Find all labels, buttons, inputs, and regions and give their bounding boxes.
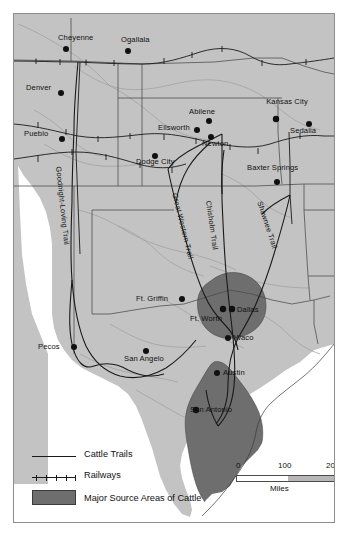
- city-label-newton: Newton: [202, 140, 228, 149]
- legend-item-cattle-trails: Cattle Trails: [22, 446, 202, 467]
- area-swatch-icon: [32, 490, 76, 505]
- city-label-ogallala: Ogallala: [121, 36, 150, 45]
- map-legend: Cattle Trails Railways Major Source Area…: [22, 446, 202, 512]
- legend-item-source-areas: Major Source Areas of Cattle: [22, 488, 202, 512]
- scale-tick-0: 0: [236, 461, 240, 470]
- city-label-cheyenne: Cheyenne: [58, 34, 93, 43]
- city-label-abilene: Abilene: [189, 108, 215, 117]
- railway-symbol-icon: [32, 477, 76, 478]
- city-label-ellsworth: Ellsworth: [158, 124, 190, 133]
- city-label-austin: Austin: [223, 369, 245, 378]
- map-figure: Cheyenne Ogallala Denver Abilene Kansas …: [0, 0, 352, 545]
- legend-label-railways: Railways: [84, 470, 121, 480]
- city-dot-ellsworth: [194, 127, 200, 133]
- city-dot-ft-worth: [220, 306, 226, 312]
- city-label-sedalia: Sedalia: [290, 127, 316, 136]
- city-label-ft-worth: Ft. Worth: [190, 315, 222, 324]
- city-label-dallas: Dallas: [237, 306, 259, 315]
- legend-label-cattle-trails: Cattle Trails: [84, 449, 133, 459]
- scale-tick-100: 100: [278, 461, 291, 470]
- city-label-san-angelo: San Angelo: [124, 355, 164, 364]
- city-label-ft-griffin: Ft. Griffin: [136, 295, 168, 304]
- city-dot-waco: [225, 335, 231, 341]
- city-dot-ft-griffin: [179, 296, 185, 302]
- city-label-dodge-city: Dodge City: [136, 158, 174, 166]
- city-label-pueblo: Pueblo: [24, 130, 48, 139]
- legend-item-railways: Railways: [22, 467, 202, 488]
- city-dot-austin: [214, 370, 220, 376]
- city-dot-pecos: [71, 344, 77, 350]
- scale-bar-graphic: [236, 475, 335, 482]
- city-label-pecos: Pecos: [38, 343, 60, 352]
- city-label-waco: Waco: [234, 334, 254, 343]
- scale-tick-200: 200: [326, 461, 335, 470]
- city-dot-abilene: [206, 118, 212, 124]
- line-symbol-icon: [32, 456, 76, 457]
- city-dot-denver: [58, 90, 64, 96]
- legend-label-source-areas: Major Source Areas of Cattle: [84, 493, 201, 503]
- city-dot-cheyenne: [63, 46, 69, 52]
- city-dot-pueblo: [59, 136, 65, 142]
- city-label-baxter-springs: Baxter Springs: [247, 164, 293, 172]
- map-plate: Cheyenne Ogallala Denver Abilene Kansas …: [13, 13, 335, 523]
- city-dot-baxter-springs: [274, 179, 280, 185]
- city-dot-kansas-city: [273, 116, 279, 122]
- city-label-denver: Denver: [26, 84, 51, 93]
- city-label-kansas-city: Kansas City: [266, 98, 308, 106]
- scale-unit-label: Miles: [270, 484, 289, 493]
- city-dot-ogallala: [125, 48, 131, 54]
- city-label-san-antonio: San Antonio: [190, 406, 230, 414]
- city-dot-dallas: [229, 306, 235, 312]
